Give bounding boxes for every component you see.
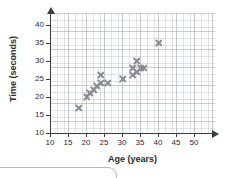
x-tick-mark — [194, 133, 195, 137]
x-tick-label: 30 — [118, 139, 127, 147]
x-axis-arrow-icon — [212, 130, 219, 138]
bottom-rounded-panel — [0, 167, 117, 178]
y-axis-tick-labels: 10152025303540 — [0, 0, 44, 178]
x-tick-label: 40 — [154, 139, 163, 147]
x-tick-mark — [122, 133, 123, 137]
x-tick-mark — [140, 133, 141, 137]
x-tick-label: 50 — [190, 139, 199, 147]
data-point — [103, 78, 112, 87]
x-tick-mark — [68, 133, 69, 137]
y-tick-label: 20 — [35, 93, 44, 101]
data-point — [154, 39, 163, 48]
y-axis-arrow-icon — [47, 7, 55, 14]
y-tick-mark — [46, 61, 50, 62]
y-tick-label: 25 — [35, 75, 44, 83]
data-point — [74, 103, 83, 112]
x-axis-title: Age (years) — [50, 154, 215, 164]
y-tick-mark — [46, 115, 50, 116]
scatter-chart: 101520253035404550 10152025303540 Age (y… — [0, 0, 234, 178]
y-tick-label: 15 — [35, 111, 44, 119]
y-axis-line — [50, 12, 51, 134]
data-point — [139, 64, 148, 73]
y-tick-label: 10 — [35, 129, 44, 137]
x-tick-mark — [176, 133, 177, 137]
x-tick-label: 45 — [172, 139, 181, 147]
x-tick-label: 15 — [64, 139, 73, 147]
y-tick-mark — [46, 133, 50, 134]
y-tick-label: 30 — [35, 57, 44, 65]
y-tick-mark — [46, 79, 50, 80]
y-tick-label: 40 — [35, 21, 44, 29]
y-axis-title: Time (seconds) — [8, 9, 18, 129]
x-tick-mark — [86, 133, 87, 137]
x-axis-line — [50, 133, 214, 134]
y-tick-mark — [46, 97, 50, 98]
x-tick-label: 10 — [46, 139, 55, 147]
x-tick-label: 25 — [100, 139, 109, 147]
x-tick-mark — [104, 133, 105, 137]
y-tick-label: 35 — [35, 39, 44, 47]
data-point — [118, 75, 127, 84]
x-tick-mark — [158, 133, 159, 137]
x-tick-label: 20 — [82, 139, 91, 147]
y-tick-mark — [46, 25, 50, 26]
x-tick-mark — [50, 133, 51, 137]
x-tick-label: 35 — [136, 139, 145, 147]
y-tick-mark — [46, 43, 50, 44]
